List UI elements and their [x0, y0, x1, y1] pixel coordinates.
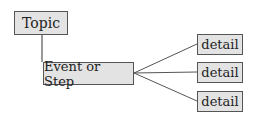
- topic-label: Topic: [22, 15, 60, 31]
- event-box: Event or Step: [43, 62, 134, 85]
- detail-box-1: detail: [197, 34, 243, 55]
- event-to-detail-2-line: [134, 72, 197, 73]
- event-to-detail-3-line: [134, 73, 197, 101]
- detail-box-2: detail: [197, 62, 243, 83]
- detail-label: detail: [201, 65, 238, 80]
- topic-box: Topic: [14, 11, 68, 35]
- detail-label: detail: [201, 94, 238, 109]
- event-label: Event or Step: [44, 59, 133, 89]
- detail-label: detail: [201, 37, 238, 52]
- event-to-detail-1-line: [134, 44, 197, 73]
- detail-box-3: detail: [197, 91, 243, 112]
